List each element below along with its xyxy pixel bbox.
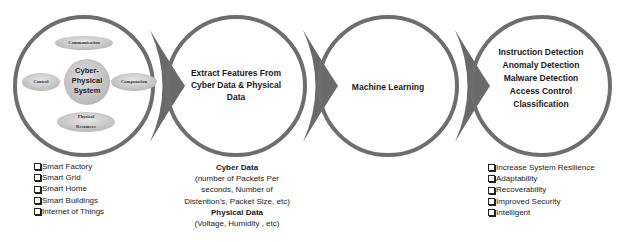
domain-item: Internet of Things <box>34 206 104 217</box>
domain-label: Smart Home <box>42 183 87 194</box>
checkbox-bullet-icon <box>34 174 41 181</box>
benefit-item: Improved Security <box>488 196 595 207</box>
domain-label: Internet of Things <box>42 206 104 217</box>
cyber-data-line: (number of Packets Per <box>168 173 306 184</box>
app-item: Instruction Detection <box>485 46 597 59</box>
checkbox-bullet-icon <box>488 187 495 194</box>
checkbox-bullet-icon <box>488 175 495 182</box>
domain-item: Smart Grid <box>34 172 104 183</box>
checkbox-bullet-icon <box>34 186 41 193</box>
cps-label-physical: Physical <box>57 114 115 119</box>
app-item: Classification <box>485 98 597 111</box>
stage-apps-text: Instruction Detection Anomaly Detection … <box>485 46 597 111</box>
cps-center-title: Cyber- Physical System <box>64 66 110 96</box>
benefit-item: Adaptability <box>488 173 595 184</box>
data-description: Cyber Data (number of Packets Per second… <box>168 162 306 229</box>
domain-label: Smart Buildings <box>42 195 98 206</box>
checkbox-bullet-icon <box>34 208 41 215</box>
domains-list: Smart Factory Smart Grid Smart Home Smar… <box>34 161 104 217</box>
stage-line: Extract Features From <box>180 67 292 79</box>
benefit-label: Improved Security <box>496 196 560 207</box>
benefit-item: Increase System Resilience <box>488 162 595 173</box>
stage-ml-text: Machine Learning <box>335 81 441 94</box>
stage-line: Data <box>180 91 292 103</box>
domain-item: Smart Factory <box>34 161 104 172</box>
domain-label: Smart Grid <box>42 172 81 183</box>
checkbox-bullet-icon <box>488 209 495 216</box>
benefits-list: Increase System Resilience Adaptability … <box>488 162 595 218</box>
app-item: Access Control <box>485 85 597 98</box>
stage-line: Machine Learning <box>335 81 441 94</box>
benefit-label: Recoverability <box>496 184 546 195</box>
app-item: Anomaly Detection <box>485 59 597 72</box>
domain-item: Smart Home <box>34 183 104 194</box>
domain-label: Smart Factory <box>42 161 92 172</box>
cyber-data-title: Cyber Data <box>168 162 306 173</box>
checkbox-bullet-icon <box>34 197 41 204</box>
cps-label-communication: Communication <box>55 40 113 45</box>
benefit-label: Increase System Resilience <box>496 162 595 173</box>
checkbox-bullet-icon <box>34 163 41 170</box>
checkbox-bullet-icon <box>488 198 495 205</box>
app-item: Malware Detection <box>485 72 597 85</box>
cps-label-resources: Resources <box>57 124 115 129</box>
stage-line: Cyber Data & Physical <box>180 79 292 91</box>
cyber-data-line: Distention’s, Packet Size, etc) <box>168 196 306 207</box>
cps-label-computation: Computation <box>111 79 157 84</box>
cyber-data-line: seconds, Number of <box>168 184 306 195</box>
cps-title-line: System <box>64 86 110 96</box>
benefit-item: Recoverability <box>488 184 595 195</box>
physical-data-title: Physical Data <box>168 207 306 218</box>
domain-item: Smart Buildings <box>34 195 104 206</box>
checkbox-bullet-icon <box>488 164 495 171</box>
benefit-item: Intelligent <box>488 207 595 218</box>
physical-data-line: (Voltage, Humidity , etc) <box>168 218 306 229</box>
cps-label-control: Control <box>22 79 60 84</box>
benefit-label: Intelligent <box>496 207 530 218</box>
cps-title-line: Cyber- <box>64 66 110 76</box>
stage-extract-text: Extract Features From Cyber Data & Physi… <box>180 67 292 103</box>
benefit-label: Adaptability <box>496 173 537 184</box>
cps-title-line: Physical <box>64 76 110 86</box>
